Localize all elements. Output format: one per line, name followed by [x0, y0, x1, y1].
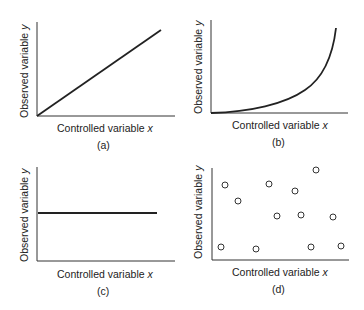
y-axis-label-b: Observed variable y: [192, 21, 204, 114]
linear-curve: [37, 30, 161, 116]
axes-b: [211, 20, 348, 113]
panel-b-plot: [211, 20, 348, 113]
y-axis-label-d: Observed variable y: [192, 166, 204, 259]
figure-canvas: [0, 0, 364, 310]
x-axis-label-c: Controlled variable x: [57, 268, 153, 280]
axes-c: [37, 167, 175, 261]
panel-a-plot: [37, 22, 175, 116]
panel-label-d: (d): [272, 283, 285, 295]
x-axis-label-d: Controlled variable x: [232, 266, 328, 278]
axes-d: [212, 168, 349, 260]
panel-label-b: (b): [272, 136, 285, 148]
x-axis-label-b: Controlled variable x: [232, 119, 328, 131]
scatter-points: [218, 167, 344, 252]
panel-label-a: (a): [97, 139, 110, 151]
x-axis-label-a: Controlled variable x: [57, 122, 153, 134]
y-axis-label-c: Observed variable y: [18, 169, 30, 262]
panel-c-plot: [37, 167, 175, 261]
y-axis-label-a: Observed variable y: [18, 25, 30, 118]
panel-label-c: (c): [97, 285, 109, 297]
exponential-curve: [211, 28, 336, 113]
panel-d-plot: [212, 167, 349, 260]
